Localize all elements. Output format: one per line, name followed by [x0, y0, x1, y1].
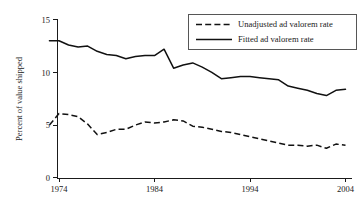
- series-line-unadjusted-ad-valorem-rate: [49, 114, 345, 149]
- x-tick-label-2004: 2004: [337, 184, 355, 194]
- y-tick-label-10: 10: [42, 68, 51, 78]
- legend-label-unadjusted: Unadjusted ad valorem rate: [238, 19, 333, 29]
- chart-figure: 15 10 5 0 1974 1984 1994 2004 Percent of…: [0, 0, 363, 208]
- x-axis-ticks: 1974 1984 1994 2004: [51, 178, 355, 194]
- legend-label-fitted: Fitted ad valorem rate: [238, 34, 314, 44]
- legend: Unadjusted ad valorem rate Fitted ad val…: [189, 15, 357, 50]
- x-tick-label-1994: 1994: [242, 184, 260, 194]
- y-tick-label-5: 5: [46, 120, 50, 130]
- x-tick-label-1974: 1974: [51, 184, 69, 194]
- y-tick-label-15: 15: [42, 15, 51, 25]
- y-tick-label-0: 0: [46, 173, 50, 183]
- line-chart: 15 10 5 0 1974 1984 1994 2004 Percent of…: [0, 0, 363, 208]
- y-axis-title: Percent of value shipped: [14, 56, 24, 141]
- x-tick-label-1984: 1984: [146, 184, 164, 194]
